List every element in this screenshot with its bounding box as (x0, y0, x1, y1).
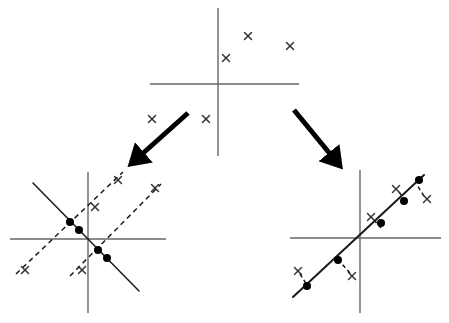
bottom-right-projected-dot-4 (415, 176, 423, 184)
bottom-left-dashed-line-1 (70, 184, 161, 276)
bottom-right-projected-dot-2 (377, 219, 385, 227)
bottom-left-x-marker-1 (79, 267, 86, 274)
top-scatter-x-marker-1 (287, 43, 294, 50)
top-scatter-x-marker-2 (223, 55, 230, 62)
fitted-projection-panel (290, 170, 441, 313)
arrow-to-left-panel (138, 113, 188, 158)
bottom-right-projected-dot-3 (400, 197, 408, 205)
bottom-right-dashed-line-4 (417, 185, 424, 196)
bottom-left-solid-line-0 (33, 183, 139, 291)
bottom-right-x-marker-1 (349, 273, 356, 280)
bottom-right-x-marker-3 (393, 186, 400, 193)
bottom-right-solid-line-0 (293, 175, 424, 297)
original-data-panel (149, 8, 300, 156)
bottom-left-projected-dot-2 (94, 246, 102, 254)
bottom-right-projected-dot-1 (334, 256, 342, 264)
bottom-right-x-marker-4 (424, 196, 431, 203)
bottom-left-projected-dot-1 (75, 226, 83, 234)
bottom-right-projected-dot-0 (303, 282, 311, 290)
candidate-projections-panel (10, 172, 166, 313)
top-scatter-x-marker-0 (245, 33, 252, 40)
bottom-right-x-marker-0 (295, 268, 302, 275)
bottom-right-x-marker-2 (368, 214, 375, 221)
top-scatter-x-marker-4 (203, 116, 210, 123)
bottom-left-projected-dot-0 (66, 218, 74, 226)
arrow-to-right-panel (294, 110, 334, 159)
top-scatter-x-marker-3 (149, 116, 156, 123)
bottom-right-dashed-line-1 (341, 263, 350, 273)
bottom-left-x-marker-0 (22, 267, 29, 274)
projection-diagram (0, 0, 449, 323)
bottom-left-projected-dot-3 (103, 254, 111, 262)
diagram-canvas (0, 0, 449, 323)
bottom-left-x-marker-2 (92, 204, 99, 211)
